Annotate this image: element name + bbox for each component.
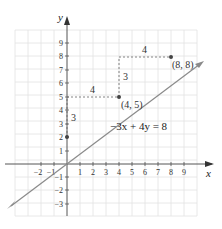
svg-text:6: 6 <box>59 79 63 88</box>
y-axis-arrow-icon <box>64 16 70 25</box>
y-axis-label: y <box>57 11 63 23</box>
svg-text:9: 9 <box>182 168 186 177</box>
graph-line <box>11 64 200 206</box>
coordinate-graph: −2 −1 1 2 3 4 5 6 7 8 9 −3 −2 −1 1 2 3 4… <box>0 0 222 229</box>
run-2-label: 4 <box>142 44 147 55</box>
svg-text:1: 1 <box>78 168 82 177</box>
svg-text:8: 8 <box>169 168 173 177</box>
svg-text:3: 3 <box>59 120 63 129</box>
point-4-5-label: (4, 5) <box>121 99 143 111</box>
point-8-8-label: (8, 8) <box>172 59 194 71</box>
y-tick-labels: −3 −2 −1 1 2 3 4 5 6 7 8 9 <box>54 39 63 209</box>
svg-text:6: 6 <box>143 168 147 177</box>
svg-text:5: 5 <box>59 93 63 102</box>
svg-text:7: 7 <box>59 66 63 75</box>
line-arrow-start-icon <box>7 201 15 209</box>
svg-text:7: 7 <box>156 168 160 177</box>
svg-text:−2: −2 <box>34 168 43 177</box>
svg-text:−2: −2 <box>54 186 63 195</box>
svg-text:4: 4 <box>59 106 63 115</box>
run-1-label: 4 <box>90 84 95 95</box>
svg-text:5: 5 <box>130 168 134 177</box>
rise-1-label: 3 <box>71 112 76 123</box>
svg-text:2: 2 <box>59 133 63 142</box>
svg-text:2: 2 <box>91 168 95 177</box>
svg-text:8: 8 <box>59 52 63 61</box>
svg-text:3: 3 <box>104 168 108 177</box>
x-axis-label: x <box>205 167 211 179</box>
svg-text:1: 1 <box>59 147 63 156</box>
equation-label: −3x + 4y = 8 <box>110 120 168 132</box>
point-y-intercept <box>65 135 69 139</box>
rise-2-label: 3 <box>123 71 128 82</box>
svg-text:−3: −3 <box>54 200 63 209</box>
svg-text:−1: −1 <box>54 173 63 182</box>
svg-text:9: 9 <box>59 39 63 48</box>
svg-text:4: 4 <box>117 168 121 177</box>
